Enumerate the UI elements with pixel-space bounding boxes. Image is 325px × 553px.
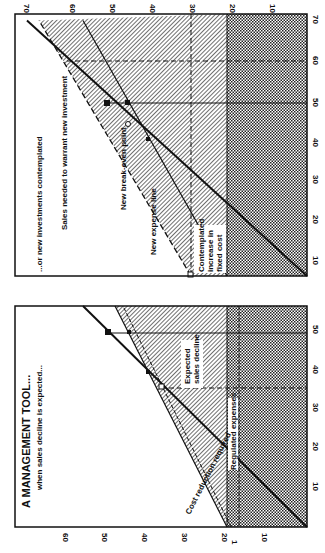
expected-decline-marker (159, 384, 164, 389)
svg-text:70: 70 (311, 15, 320, 24)
new-break-even-marker (126, 122, 131, 127)
top-panel: Contemplated increase in fixed cost ...o… (15, 4, 320, 277)
bottom-x-ticks: 50 40 30 20 10 (311, 325, 320, 491)
contemplated-label-1: Contemplated (197, 219, 206, 272)
marker-one-label: 1 (230, 540, 239, 545)
new-break-even-label: New break-even point (119, 127, 128, 210)
break-even-marker (146, 137, 150, 141)
expected-decline-label-2: sales decline (192, 334, 201, 384)
svg-text:20: 20 (220, 533, 229, 542)
svg-text:10: 10 (311, 482, 320, 491)
top-title: ...or new investments contemplated (35, 136, 44, 272)
svg-text:10: 10 (268, 4, 277, 13)
fixed-cost-region (227, 14, 307, 276)
new-expense-label: New expense line (149, 188, 158, 255)
svg-text:40: 40 (148, 4, 157, 13)
svg-text:30: 30 (180, 533, 189, 542)
bottom-subtitle: when sales decline is expected... (35, 365, 44, 491)
bottom-break-even-marker (146, 370, 150, 374)
bottom-title: A MANAGEMENT TOOL... (20, 375, 32, 508)
svg-text:20: 20 (311, 442, 320, 451)
svg-text:60: 60 (68, 4, 77, 13)
expected-decline-label-1: Expected (183, 348, 192, 384)
sales-needed-label: Sales needed to warrant new investment (60, 75, 69, 230)
svg-text:50: 50 (311, 98, 320, 107)
sales-needed-marker (104, 100, 110, 106)
svg-text:50: 50 (311, 325, 320, 334)
contemplated-label-2: increase in (206, 230, 215, 272)
svg-text:40: 40 (140, 533, 149, 542)
svg-text:30: 30 (311, 403, 320, 412)
svg-text:50: 50 (100, 533, 109, 542)
top-y-ticks: 70 60 50 40 30 20 10 (22, 4, 277, 13)
svg-text:30: 30 (311, 175, 320, 184)
svg-text:20: 20 (228, 4, 237, 13)
svg-text:40: 40 (311, 365, 320, 374)
svg-text:70: 70 (22, 4, 31, 13)
svg-text:60: 60 (311, 56, 320, 65)
svg-text:10: 10 (311, 256, 320, 265)
svg-text:40: 40 (311, 138, 320, 147)
expense-marker (125, 100, 130, 105)
regulated-expenses-label: Regulated expenses (229, 392, 238, 470)
break-even-chart: Contemplated increase in fixed cost ...o… (0, 0, 325, 553)
bottom-expense-marker (127, 330, 131, 334)
contemplated-label-3: fixed cost (215, 234, 224, 272)
bottom-panel: A MANAGEMENT TOOL... when sales decline … (15, 306, 320, 545)
top-x-ticks: 70 60 50 40 30 20 10 (311, 15, 320, 265)
svg-text:60: 60 (61, 533, 70, 542)
svg-text:20: 20 (311, 215, 320, 224)
svg-text:30: 30 (188, 4, 197, 13)
svg-text:10: 10 (260, 533, 269, 542)
bottom-sales-marker (105, 329, 111, 335)
svg-text:50: 50 (108, 4, 117, 13)
